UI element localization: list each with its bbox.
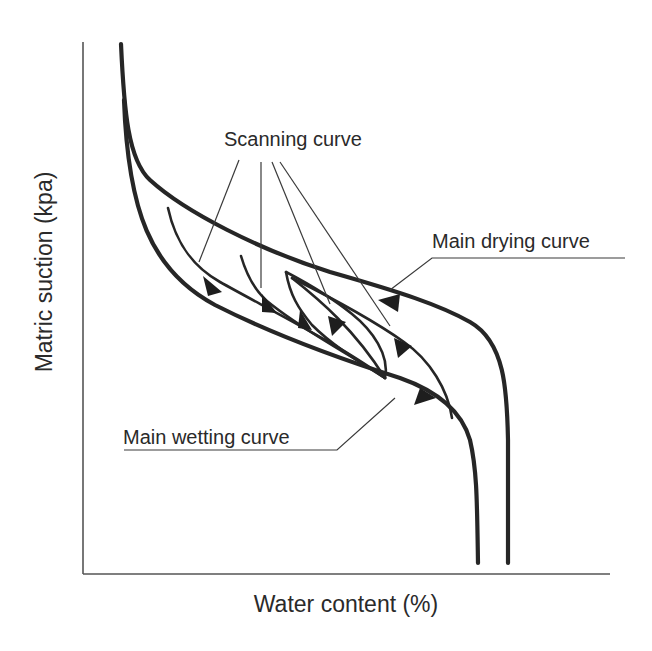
y-axis-title: Matric suction (kpa) <box>31 172 57 373</box>
label-main-drying-curve: Main drying curve <box>432 230 590 252</box>
leader-main-drying <box>390 258 625 290</box>
hysteresis-diagram: Scanning curve Main drying curve Main we… <box>0 0 652 651</box>
main-drying-curve <box>121 44 508 563</box>
leader-scanning-1 <box>199 160 239 262</box>
arrowhead-scan-2 <box>262 294 277 313</box>
arrowhead-drying <box>378 294 400 312</box>
label-main-wetting-curve: Main wetting curve <box>123 426 290 448</box>
scanning-curve-1 <box>168 208 385 378</box>
x-axis-title: Water content (%) <box>254 591 438 617</box>
arrowhead-scan-1 <box>203 276 222 296</box>
main-wetting-curve <box>124 100 478 563</box>
label-scanning-curve: Scanning curve <box>224 128 362 150</box>
arrowhead-scan-3 <box>298 310 312 330</box>
arrowhead-scan-4 <box>328 316 346 336</box>
